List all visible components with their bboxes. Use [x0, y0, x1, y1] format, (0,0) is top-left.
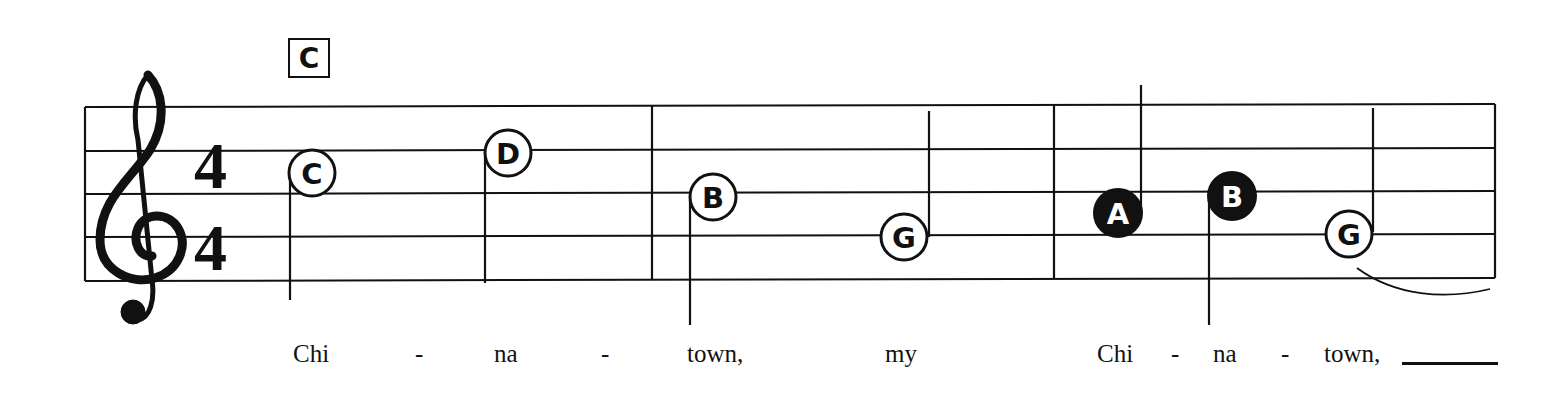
time-signature: 4 4	[194, 129, 227, 284]
treble-clef-icon	[100, 75, 182, 324]
svg-text:G: G	[1337, 218, 1361, 252]
lyric-hyphen: -	[601, 340, 609, 368]
note-G-2: G	[1326, 211, 1372, 257]
svg-text:D: D	[496, 137, 520, 171]
svg-text:G: G	[892, 221, 916, 255]
svg-text:B: B	[1221, 180, 1243, 214]
lyric-extender-line	[1402, 362, 1498, 365]
lyric-syllable: na	[494, 340, 518, 368]
chord-symbol-box: C	[288, 38, 330, 78]
lyric-syllable: na	[1213, 340, 1237, 368]
note-G-1: G	[881, 214, 927, 260]
time-signature-top: 4	[194, 129, 227, 202]
note-B-filled: B	[1208, 172, 1256, 220]
music-staff: 4 4 C D B G A B G	[0, 0, 1564, 397]
lyric-syllable: Chi	[293, 340, 329, 368]
svg-text:A: A	[1107, 197, 1130, 231]
staff-lines	[85, 104, 1495, 281]
lyric-hyphen: -	[1171, 340, 1179, 368]
note-B-1: B	[690, 174, 736, 220]
lyric-hyphen: -	[415, 340, 423, 368]
note-D-1: D	[485, 130, 531, 176]
note-A-filled: A	[1094, 189, 1142, 237]
note-C-1: C	[289, 150, 335, 196]
svg-text:C: C	[301, 157, 322, 191]
lyric-hyphen: -	[1281, 340, 1289, 368]
svg-text:B: B	[702, 181, 724, 215]
lyric-syllable: town,	[1324, 340, 1380, 368]
time-signature-bottom: 4	[194, 211, 227, 284]
lyric-syllable: my	[885, 340, 917, 368]
lyric-syllable: town,	[687, 340, 743, 368]
tie-curve	[1357, 268, 1490, 295]
lyric-syllable: Chi	[1097, 340, 1133, 368]
